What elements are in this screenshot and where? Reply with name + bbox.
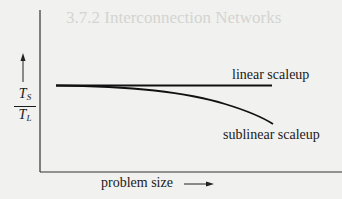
series-sublinear-scaleup xyxy=(56,86,273,125)
y-num-sub: S xyxy=(27,92,32,102)
y-axis-label: TS TL xyxy=(14,86,36,126)
x-axis-label: problem size xyxy=(101,175,173,191)
y-den-sub: L xyxy=(26,113,31,123)
y-arrow-head xyxy=(21,53,26,61)
chart-canvas xyxy=(0,0,342,199)
x-arrow-head xyxy=(206,182,214,187)
label-linear-scaleup: linear scaleup xyxy=(232,67,309,83)
y-num: T xyxy=(19,86,27,101)
label-sublinear-scaleup: sublinear scaleup xyxy=(223,127,320,143)
